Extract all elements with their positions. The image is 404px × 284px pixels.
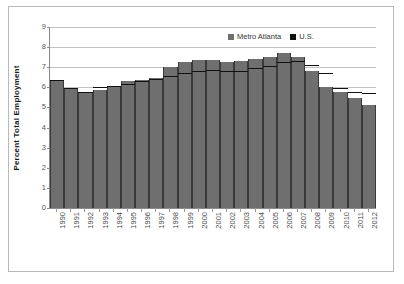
bar-us-marker[interactable]: [121, 84, 135, 85]
bar-us-marker[interactable]: [319, 73, 333, 74]
x-tick-label: 2012: [371, 212, 379, 229]
bar-group[interactable]: [248, 27, 262, 208]
bar-group[interactable]: [64, 27, 78, 208]
x-tick-label: 2002: [229, 212, 237, 229]
bar-us-marker[interactable]: [333, 88, 347, 89]
chart-figure: Percent Total Employment 0123456789 1990…: [0, 0, 404, 284]
y-tick-label: 8: [34, 43, 46, 51]
bar-us-marker[interactable]: [362, 93, 376, 94]
legend-swatch-icon: [290, 34, 296, 40]
bar-metro-atlanta[interactable]: [121, 81, 135, 208]
bar-group[interactable]: [305, 27, 319, 208]
bar-metro-atlanta[interactable]: [135, 80, 149, 208]
bar-us-marker[interactable]: [50, 80, 64, 81]
bar-metro-atlanta[interactable]: [149, 78, 163, 208]
x-tick-mark: [269, 208, 270, 212]
bar-us-marker[interactable]: [64, 88, 78, 89]
bar-us-marker[interactable]: [277, 62, 291, 63]
y-tick-label: 3: [34, 144, 46, 152]
x-tick-label: 1991: [73, 212, 81, 229]
bar-us-marker[interactable]: [78, 92, 92, 93]
bar-group[interactable]: [319, 27, 333, 208]
y-tick-label: 5: [34, 104, 46, 112]
bar-metro-atlanta[interactable]: [192, 60, 206, 208]
x-tick-mark: [184, 208, 185, 212]
bar-metro-atlanta[interactable]: [234, 61, 248, 208]
bar-us-marker[interactable]: [135, 81, 149, 82]
x-tick-label: 2010: [343, 212, 351, 229]
bar-group[interactable]: [78, 27, 92, 208]
bar-us-marker[interactable]: [263, 66, 277, 67]
bar-us-marker[interactable]: [93, 87, 107, 88]
x-tick-label: 2011: [357, 212, 365, 228]
bar-group[interactable]: [291, 27, 305, 208]
bar-us-marker[interactable]: [248, 68, 262, 69]
x-tick-mark: [198, 208, 199, 212]
bar-us-marker[interactable]: [107, 86, 121, 87]
bar-group[interactable]: [178, 27, 192, 208]
bar-us-marker[interactable]: [291, 61, 305, 62]
bar-metro-atlanta[interactable]: [348, 98, 362, 208]
bar-metro-atlanta[interactable]: [319, 87, 333, 208]
x-tick-mark: [354, 208, 355, 212]
bar-metro-atlanta[interactable]: [362, 105, 376, 208]
bar-group[interactable]: [206, 27, 220, 208]
bar-metro-atlanta[interactable]: [50, 80, 64, 208]
bar-us-marker[interactable]: [220, 71, 234, 72]
bar-group[interactable]: [192, 27, 206, 208]
bar-group[interactable]: [149, 27, 163, 208]
bar-metro-atlanta[interactable]: [163, 67, 177, 208]
bar-metro-atlanta[interactable]: [305, 71, 319, 208]
x-tick-mark: [113, 208, 114, 212]
y-tick-label: 1: [34, 184, 46, 192]
bar-group[interactable]: [121, 27, 135, 208]
bar-group[interactable]: [362, 27, 376, 208]
x-tick-mark: [212, 208, 213, 212]
x-tick-label: 1993: [102, 212, 110, 229]
bar-group[interactable]: [277, 27, 291, 208]
bar-us-marker[interactable]: [163, 76, 177, 77]
bar-group[interactable]: [263, 27, 277, 208]
bar-us-marker[interactable]: [305, 65, 319, 66]
bar-group[interactable]: [234, 27, 248, 208]
bar-metro-atlanta[interactable]: [206, 60, 220, 208]
bar-metro-atlanta[interactable]: [64, 88, 78, 208]
bar-us-marker[interactable]: [178, 73, 192, 74]
bar-group[interactable]: [50, 27, 64, 208]
bar-metro-atlanta[interactable]: [178, 62, 192, 208]
y-tick-label: 6: [34, 84, 46, 92]
x-tick-label: 1996: [144, 212, 152, 229]
bar-us-marker[interactable]: [192, 71, 206, 72]
x-tick-mark: [127, 208, 128, 212]
bar-group[interactable]: [135, 27, 149, 208]
bar-group[interactable]: [348, 27, 362, 208]
x-tick-label: 1999: [187, 212, 195, 229]
bar-group[interactable]: [163, 27, 177, 208]
x-tick-label: 2001: [215, 212, 223, 229]
bar-group[interactable]: [220, 27, 234, 208]
bar-group[interactable]: [333, 27, 347, 208]
bar-metro-atlanta[interactable]: [333, 92, 347, 208]
legend-swatch-icon: [228, 34, 234, 40]
bar-us-marker[interactable]: [234, 71, 248, 72]
bar-metro-atlanta[interactable]: [107, 87, 121, 208]
x-tick-mark: [368, 208, 369, 212]
bar-us-marker[interactable]: [149, 79, 163, 80]
bar-us-marker[interactable]: [206, 70, 220, 71]
bar-metro-atlanta[interactable]: [220, 62, 234, 208]
bar-metro-atlanta[interactable]: [277, 53, 291, 208]
bar-group[interactable]: [107, 27, 121, 208]
y-tick-label: 4: [34, 124, 46, 132]
y-tick-label: 0: [34, 204, 46, 212]
x-tick-label: 2009: [328, 212, 336, 229]
bar-metro-atlanta[interactable]: [78, 93, 92, 208]
bar-group[interactable]: [93, 27, 107, 208]
bar-metro-atlanta[interactable]: [93, 90, 107, 208]
y-tick-mark: [47, 208, 50, 209]
bar-metro-atlanta[interactable]: [248, 59, 262, 208]
bar-metro-atlanta[interactable]: [263, 57, 277, 208]
legend-label: Metro Atlanta: [237, 33, 281, 41]
bar-us-marker[interactable]: [348, 92, 362, 93]
x-tick-label: 2006: [286, 212, 294, 229]
bar-metro-atlanta[interactable]: [291, 57, 305, 208]
